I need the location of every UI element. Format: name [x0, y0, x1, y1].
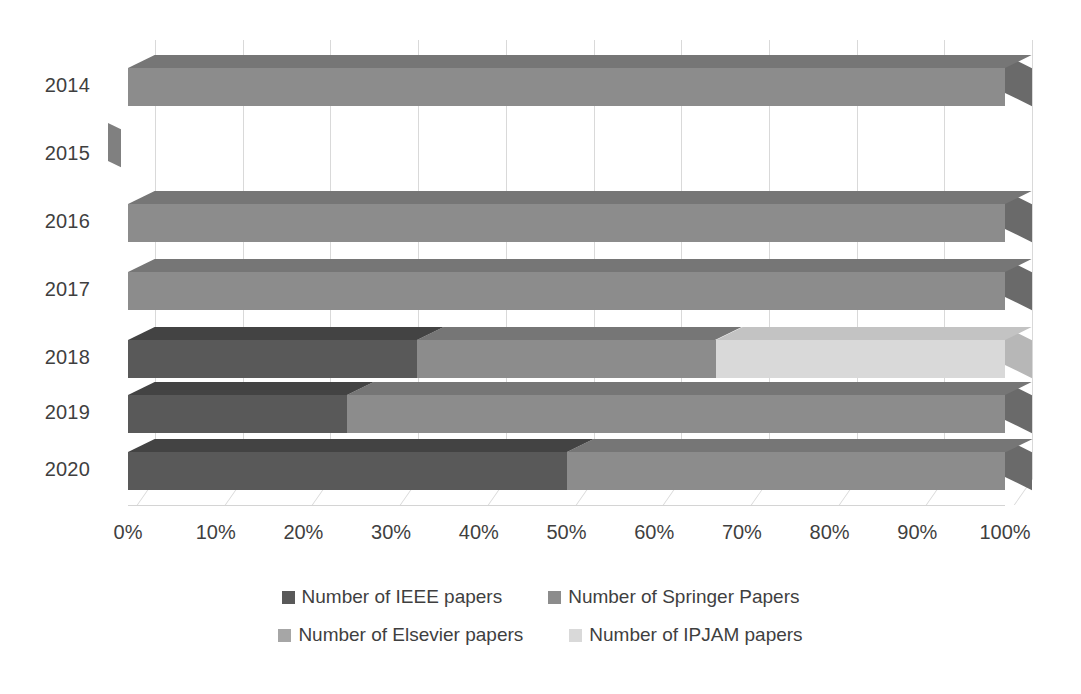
bar-segment-front-face — [347, 395, 1005, 433]
legend-item[interactable]: Number of Elsevier papers — [278, 624, 523, 646]
legend-item[interactable]: Number of Springer Papers — [548, 586, 799, 608]
bar-segment[interactable] — [128, 452, 567, 490]
category-label-2017: 2017 — [20, 278, 90, 301]
bar-segment-front-face — [716, 340, 1005, 378]
x-tick-label-70: 70% — [702, 521, 782, 544]
plot-area: 2014201520162017201820192020 0%10%20%30%… — [0, 0, 1081, 560]
axis-floor-edge — [128, 505, 1005, 506]
chart-legend: Number of IEEE papersNumber of Springer … — [0, 578, 1081, 654]
legend-row: Number of IEEE papersNumber of Springer … — [0, 578, 1081, 616]
bar-segment-front-face — [567, 452, 1006, 490]
bar-segment-top-face — [716, 327, 1032, 340]
bar-row — [0, 395, 1081, 433]
legend-label: Number of Elsevier papers — [298, 624, 523, 646]
bar-row — [0, 204, 1081, 242]
bar-segment-top-face — [128, 327, 444, 340]
bar-segment[interactable] — [128, 340, 417, 378]
legend-swatch-icon — [278, 629, 291, 642]
bar-segment-top-face — [128, 55, 1032, 68]
bar-segment-front-face — [128, 340, 417, 378]
chart-container: 2014201520162017201820192020 0%10%20%30%… — [0, 0, 1081, 694]
x-tick-label-90: 90% — [877, 521, 957, 544]
bar-segment[interactable] — [716, 340, 1005, 378]
category-label-2016: 2016 — [20, 210, 90, 233]
category-label-2015: 2015 — [20, 142, 90, 165]
category-label-2019: 2019 — [20, 401, 90, 424]
bar-row — [0, 68, 1081, 106]
legend-item[interactable]: Number of IPJAM papers — [569, 624, 802, 646]
bar-segment-front-face — [128, 452, 567, 490]
bar-row — [0, 452, 1081, 490]
x-tick-label-50: 50% — [527, 521, 607, 544]
x-tick-label-10: 10% — [176, 521, 256, 544]
bar-segment[interactable] — [128, 395, 347, 433]
x-tick-label-60: 60% — [614, 521, 694, 544]
bar-segment[interactable] — [567, 452, 1006, 490]
x-tick-label-20: 20% — [263, 521, 343, 544]
legend-swatch-icon — [569, 629, 582, 642]
legend-label: Number of Springer Papers — [568, 586, 799, 608]
legend-label: Number of IPJAM papers — [589, 624, 802, 646]
legend-item[interactable]: Number of IEEE papers — [282, 586, 503, 608]
x-tick-label-0: 0% — [88, 521, 168, 544]
bar-zero-length-face[interactable] — [108, 123, 121, 167]
bar-segment-front-face — [128, 395, 347, 433]
bar-row — [0, 340, 1081, 378]
bar-segment-top-face — [128, 259, 1032, 272]
category-label-2018: 2018 — [20, 346, 90, 369]
bar-segment-front-face — [417, 340, 715, 378]
bar-segment[interactable] — [128, 272, 1005, 310]
legend-label: Number of IEEE papers — [302, 586, 503, 608]
x-tick-label-40: 40% — [439, 521, 519, 544]
bar-segment-top-face — [567, 439, 1032, 452]
category-label-2014: 2014 — [20, 74, 90, 97]
bar-segment-top-face — [417, 327, 742, 340]
x-tick-label-100: 100% — [965, 521, 1045, 544]
bar-segment-front-face — [128, 272, 1005, 310]
bar-segment[interactable] — [347, 395, 1005, 433]
bar-row — [0, 136, 1081, 174]
bar-row — [0, 272, 1081, 310]
bar-segment[interactable] — [128, 68, 1005, 106]
legend-row: Number of Elsevier papersNumber of IPJAM… — [0, 616, 1081, 654]
bar-segment-front-face — [128, 204, 1005, 242]
bar-segment[interactable] — [128, 204, 1005, 242]
bar-segment-top-face — [347, 382, 1031, 395]
category-label-2020: 2020 — [20, 458, 90, 481]
bar-segment-front-face — [128, 68, 1005, 106]
bar-segment-top-face — [128, 382, 374, 395]
legend-swatch-icon — [548, 591, 561, 604]
legend-swatch-icon — [282, 591, 295, 604]
x-tick-label-30: 30% — [351, 521, 431, 544]
bar-segment-top-face — [128, 439, 593, 452]
bar-segment-top-face — [128, 191, 1032, 204]
bar-segment[interactable] — [417, 340, 715, 378]
x-tick-label-80: 80% — [790, 521, 870, 544]
